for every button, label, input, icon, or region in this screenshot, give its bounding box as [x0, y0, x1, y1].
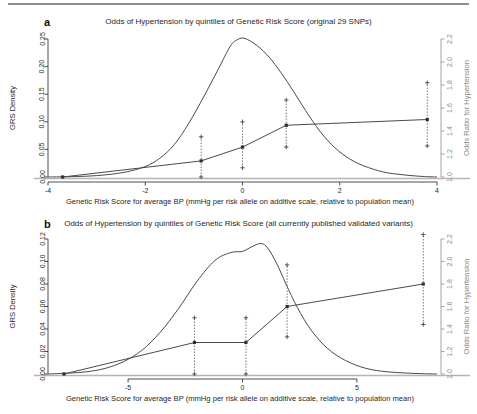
grs-density-curve	[48, 38, 437, 177]
left-axis-tick-label: 0.06	[39, 300, 46, 314]
right-axis-tick-label: 1.6	[446, 103, 453, 113]
quintile-point-estimate	[426, 118, 429, 121]
x-axis-title: Genetic Risk Score for average BP (mmHg …	[66, 197, 415, 206]
x-axis-tick-label: 4	[435, 187, 439, 194]
right-axis-tick-label: 1.4	[446, 324, 453, 334]
panel-b-title: Odds of Hypertension by quintiles of Gen…	[0, 219, 477, 228]
header-divider	[8, 3, 469, 5]
right-axis-tick-label: 1.8	[446, 80, 453, 90]
left-axis-title: GRS Density	[8, 284, 17, 328]
panel-b-plot: 0.000.020.040.060.080.100.12GRS Density1…	[0, 212, 477, 414]
x-axis-tick-label: 0	[241, 384, 245, 391]
x-axis-tick-label: -2	[142, 187, 148, 194]
right-axis-title: Odds Ratio for Hypertension	[462, 259, 471, 355]
grs-density-curve	[48, 243, 437, 374]
figure-container: a Odds of Hypertension by quintiles of G…	[0, 0, 477, 414]
quintile-point-estimate	[286, 305, 289, 308]
right-axis-tick-label: 1.6	[446, 302, 453, 312]
quintile-point-estimate	[422, 282, 425, 285]
left-axis-tick-label: 0.10	[39, 255, 46, 269]
right-axis-tick-label: 2.0	[446, 257, 453, 267]
right-axis-tick-label: 1.0	[446, 172, 453, 182]
x-axis-tick-label: -4	[45, 187, 51, 194]
left-axis-tick-label: 0.02	[39, 345, 46, 359]
right-axis-tick-label: 2.2	[446, 234, 453, 244]
panel-a-plot: 0.000.050.100.150.200.25GRS Density1.01.…	[0, 10, 477, 210]
x-axis-title: Genetic Risk Score for average BP (mmHg …	[66, 394, 415, 403]
left-axis-tick-label: 0.08	[39, 277, 46, 291]
quintile-point-estimate	[62, 372, 65, 375]
left-axis-tick-label: 0.04	[39, 322, 46, 336]
right-axis-tick-label: 2.0	[446, 57, 453, 67]
panel-a-title: Odds of Hypertension by quintiles of Gen…	[0, 17, 477, 26]
quintile-point-estimate	[200, 159, 203, 162]
left-axis-title: GRS Density	[8, 86, 17, 130]
x-axis-tick-label: 5	[355, 384, 359, 391]
right-axis-tick-label: 1.2	[446, 347, 453, 357]
quintile-point-estimate	[285, 124, 288, 127]
x-axis-tick-label: 2	[338, 187, 342, 194]
left-axis-tick-label: 0.15	[39, 87, 46, 101]
right-axis-tick-label: 1.4	[446, 126, 453, 136]
x-axis-tick-label: -5	[125, 384, 131, 391]
left-axis-tick-label: 0.10	[39, 115, 46, 129]
left-axis-tick-label: 0.05	[39, 142, 46, 156]
quintile-point-estimate	[244, 341, 247, 344]
left-axis-tick-label: 0.20	[39, 60, 46, 74]
odds-ratio-line	[64, 284, 423, 374]
left-axis-tick-label: 0.00	[39, 367, 46, 381]
panel-b: b Odds of Hypertension by quintiles of G…	[0, 212, 477, 414]
x-axis-tick-label: 0	[241, 187, 245, 194]
quintile-point-estimate	[193, 341, 196, 344]
right-axis-tick-label: 1.2	[446, 149, 453, 159]
right-axis-title: Odds Ratio for Hypertension	[462, 60, 471, 156]
right-axis-tick-label: 1.8	[446, 279, 453, 289]
left-axis-tick-label: 0.00	[39, 170, 46, 184]
left-axis-tick-label: 0.12	[39, 232, 46, 246]
quintile-point-estimate	[241, 146, 244, 149]
left-axis-tick-label: 0.25	[39, 32, 46, 46]
quintile-point-estimate	[61, 175, 64, 178]
panel-a: a Odds of Hypertension by quintiles of G…	[0, 10, 477, 210]
right-axis-tick-label: 2.2	[446, 34, 453, 44]
right-axis-tick-label: 1.0	[446, 369, 453, 379]
odds-ratio-line	[63, 120, 428, 178]
